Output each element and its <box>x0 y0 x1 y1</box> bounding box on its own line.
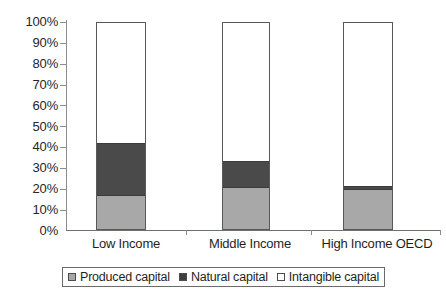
bar-middle-income[interactable] <box>222 22 270 230</box>
x-axis-category-middle-income: Middle Income <box>188 236 312 251</box>
legend-swatch-natural-icon <box>179 273 187 281</box>
bar-segment-intangible-middle-income[interactable] <box>223 23 269 161</box>
legend-label-natural-capital: Natural capital <box>191 271 268 284</box>
y-axis-label-0: 0% <box>2 224 58 237</box>
bar-high-income-oecd[interactable] <box>343 22 393 230</box>
legend-swatch-intangible-icon <box>277 273 285 281</box>
y-axis-label-40: 40% <box>2 140 58 153</box>
stacked-bar-chart: 100% 90% 80% 70% 60% 50% 40% 30% <box>0 0 446 299</box>
bar-segment-natural-low-income[interactable] <box>97 143 145 197</box>
bar-segment-intangible-low-income[interactable] <box>97 23 145 142</box>
bar-segment-intangible-high-income-oecd[interactable] <box>344 23 392 186</box>
y-axis-label-60: 60% <box>2 99 58 112</box>
plot-area <box>66 22 440 230</box>
x-axis-tick-1 <box>186 230 187 235</box>
legend-swatch-produced-icon <box>68 273 76 281</box>
bar-segment-produced-middle-income[interactable] <box>223 188 269 229</box>
chart-legend: Produced capital Natural capital Intangi… <box>62 267 385 287</box>
legend-item-produced-capital[interactable]: Produced capital <box>68 271 170 284</box>
bar-segment-produced-high-income-oecd[interactable] <box>344 190 392 229</box>
x-axis-line <box>66 230 441 231</box>
x-axis-category-low-income: Low Income <box>66 236 186 251</box>
legend-label-intangible-capital: Intangible capital <box>289 271 379 284</box>
x-axis-tick-3 <box>440 230 441 235</box>
y-axis-label-80: 80% <box>2 57 58 70</box>
y-axis-label-30: 30% <box>2 161 58 174</box>
bar-low-income[interactable] <box>96 22 146 230</box>
legend-item-intangible-capital[interactable]: Intangible capital <box>277 271 379 284</box>
x-axis-tick-2 <box>311 230 312 235</box>
legend-label-produced-capital: Produced capital <box>80 271 170 284</box>
legend-item-natural-capital[interactable]: Natural capital <box>179 271 268 284</box>
y-axis-label-70: 70% <box>2 78 58 91</box>
x-axis-category-high-income-oecd: High Income OECD <box>312 236 442 251</box>
y-axis-label-50: 50% <box>2 120 58 133</box>
bar-segment-natural-middle-income[interactable] <box>223 161 269 188</box>
y-axis-label-20: 20% <box>2 182 58 195</box>
y-axis-label-100: 100% <box>2 15 58 28</box>
y-axis-label-10: 10% <box>2 203 58 216</box>
y-axis-label-90: 90% <box>2 36 58 49</box>
bar-segment-produced-low-income[interactable] <box>97 196 145 229</box>
